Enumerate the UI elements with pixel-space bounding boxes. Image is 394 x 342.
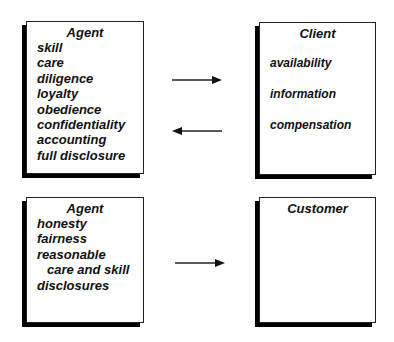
arrow-right-icon [173, 257, 227, 269]
agent-title: Agent [27, 25, 143, 40]
list-item: skill [37, 40, 143, 55]
client-duties-box: Client availability information compensa… [259, 22, 376, 175]
agent-customer-duties-list: honesty fairness reasonable care and ski… [27, 216, 143, 293]
client-duties-list: availability information compensation [260, 56, 375, 149]
list-item: accounting [37, 132, 143, 147]
customer-title: Customer [260, 201, 375, 216]
client-title: Client [260, 26, 375, 41]
list-item: compensation [270, 118, 375, 149]
list-item: disclosures [37, 278, 143, 293]
list-item: full disclosure [37, 148, 143, 163]
list-item: fairness [37, 231, 143, 246]
list-item: availability [270, 56, 375, 87]
list-item: information [270, 87, 375, 118]
list-item: obedience [37, 102, 143, 117]
list-item: reasonable [37, 247, 143, 262]
list-item: loyalty [37, 86, 143, 101]
arrow-left-icon [170, 125, 224, 137]
list-item: diligence [37, 71, 143, 86]
customer-box: Customer [259, 197, 376, 323]
agent-duties-list: skill care diligence loyalty obedience c… [27, 40, 143, 163]
list-item: honesty [37, 216, 143, 231]
arrow-right-icon [170, 74, 224, 86]
list-item: confidentiality [37, 117, 143, 132]
agent-customer-duties-box: Agent honesty fairness reasonable care a… [26, 197, 144, 323]
agent-title: Agent [27, 201, 143, 216]
list-item: care and skill [37, 262, 143, 277]
list-item: care [37, 55, 143, 70]
agent-duties-box: Agent skill care diligence loyalty obedi… [26, 21, 144, 174]
